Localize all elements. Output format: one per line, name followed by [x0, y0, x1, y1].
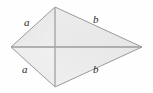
kite-figure: a b a b — [0, 0, 153, 93]
side-label-upper-left: a — [24, 17, 30, 28]
side-label-upper-right: b — [93, 14, 99, 25]
side-label-lower-left: a — [22, 64, 28, 75]
kite-diagram-svg — [0, 0, 153, 93]
side-label-lower-right: b — [93, 64, 99, 75]
